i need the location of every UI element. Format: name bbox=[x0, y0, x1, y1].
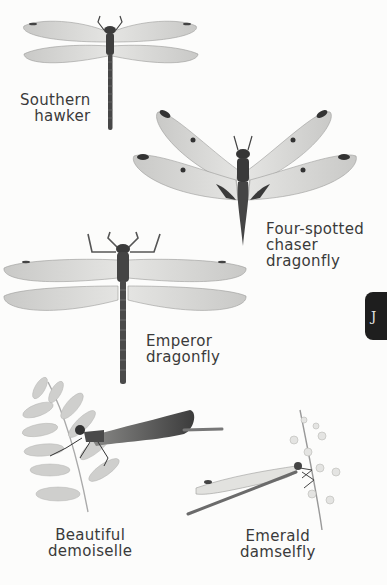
label-line: Southern bbox=[20, 92, 91, 108]
label-line: damselfly bbox=[240, 544, 316, 560]
label-line: Beautiful bbox=[48, 527, 132, 543]
index-tab[interactable]: J bbox=[365, 292, 387, 340]
label-line: demoiselle bbox=[48, 543, 132, 559]
label-beautiful-demoiselle: Beautiful demoiselle bbox=[48, 527, 132, 559]
label-four-spotted-chaser: Four-spotted chaser dragonfly bbox=[266, 221, 364, 269]
label-line: Four-spotted bbox=[266, 221, 364, 237]
label-emerald-damselfly: Emerald damselfly bbox=[240, 528, 316, 560]
label-southern-hawker: Southern hawker bbox=[20, 92, 91, 124]
label-emperor-dragonfly: Emperor dragonfly bbox=[146, 333, 220, 365]
label-line: Emerald bbox=[240, 528, 316, 544]
label-line: hawker bbox=[34, 108, 91, 124]
beautiful-demoiselle-illustration bbox=[21, 375, 222, 512]
label-line: dragonfly bbox=[266, 253, 364, 269]
label-line: Emperor bbox=[146, 333, 220, 349]
label-line: chaser bbox=[266, 237, 364, 253]
index-tab-letter: J bbox=[371, 309, 376, 324]
label-line: dragonfly bbox=[146, 349, 220, 365]
